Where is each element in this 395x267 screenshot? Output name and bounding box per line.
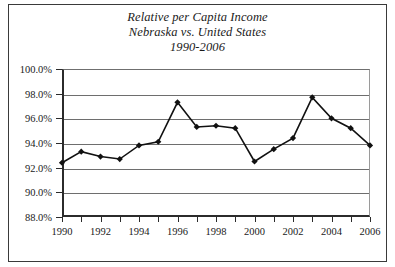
x-axis-tick: [293, 217, 294, 222]
y-axis-tick-label: 88.0%: [25, 212, 52, 223]
x-axis-tick: [351, 217, 352, 222]
data-point-marker: [213, 123, 219, 129]
x-axis-tick-label: 2000: [244, 226, 265, 237]
data-point-marker: [97, 153, 103, 159]
x-axis-tick-label: 1998: [206, 226, 227, 237]
y-axis-tick-label: 94.0%: [25, 138, 52, 149]
x-axis-ticks: [62, 217, 370, 223]
y-axis-tick-label: 98.0%: [25, 88, 52, 99]
x-axis-tick: [62, 217, 63, 222]
x-axis-tick-label: 2006: [360, 226, 381, 237]
series-line: [62, 97, 370, 162]
chart-title-line-1: Relative per Capita Income: [0, 10, 395, 25]
x-axis-tick: [332, 217, 333, 222]
x-axis-tick: [120, 217, 121, 222]
x-axis-tick-label: 2002: [283, 226, 304, 237]
x-axis-tick: [370, 217, 371, 222]
x-axis-tick: [274, 217, 275, 222]
x-axis-tick: [312, 217, 313, 222]
x-axis-tick: [235, 217, 236, 222]
x-axis-tick: [139, 217, 140, 222]
y-axis-labels: 88.0%90.0%92.0%94.0%96.0%98.0%100.0%: [0, 60, 56, 226]
chart-title: Relative per Capita Income Nebraska vs. …: [0, 10, 395, 55]
x-axis-tick: [81, 217, 82, 222]
series-markers: [59, 94, 373, 166]
x-axis-tick-label: 1992: [90, 226, 111, 237]
x-axis-tick: [255, 217, 256, 222]
chart-title-line-3: 1990-2006: [0, 40, 395, 55]
x-axis-tick-label: 1990: [52, 226, 73, 237]
y-axis-tick-label: 90.0%: [25, 187, 52, 198]
chart-figure: Relative per Capita Income Nebraska vs. …: [0, 0, 395, 267]
chart-title-line-2: Nebraska vs. United States: [0, 25, 395, 40]
y-axis-tick-label: 92.0%: [25, 162, 52, 173]
data-point-marker: [155, 139, 161, 145]
data-series-layer: [62, 69, 370, 217]
x-axis-tick-label: 1994: [129, 226, 150, 237]
x-axis-tick-label: 2004: [321, 226, 342, 237]
x-axis-tick: [178, 217, 179, 222]
x-axis-labels: 199019921994199619982000200220042006: [0, 226, 395, 244]
x-axis-tick: [101, 217, 102, 222]
y-axis-tick-label: 100.0%: [20, 64, 52, 75]
x-axis-tick: [158, 217, 159, 222]
x-axis-tick-label: 1996: [167, 226, 188, 237]
x-axis-tick: [216, 217, 217, 222]
y-axis-tick-label: 96.0%: [25, 113, 52, 124]
x-axis-tick: [197, 217, 198, 222]
